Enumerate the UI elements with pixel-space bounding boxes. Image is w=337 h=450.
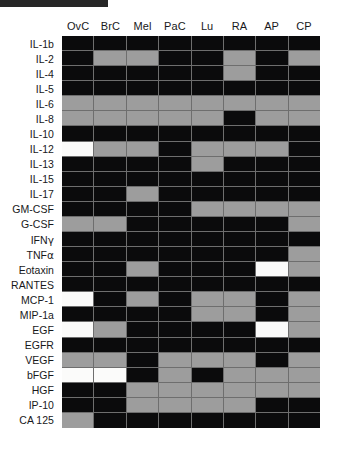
heatmap-cell[interactable] [192, 353, 224, 368]
heatmap-cell[interactable] [127, 413, 159, 428]
heatmap-cell[interactable] [192, 81, 224, 96]
heatmap-cell[interactable] [256, 277, 288, 292]
heatmap-cell[interactable] [224, 142, 256, 157]
heatmap-cell[interactable] [62, 398, 94, 413]
heatmap-cell[interactable] [94, 217, 126, 232]
heatmap-cell[interactable] [94, 126, 126, 141]
heatmap-cell[interactable] [256, 413, 288, 428]
heatmap-cell[interactable] [289, 398, 320, 413]
heatmap-cell[interactable] [192, 232, 224, 247]
heatmap-cell[interactable] [159, 172, 191, 187]
heatmap-cell[interactable] [62, 307, 94, 322]
heatmap-cell[interactable] [192, 322, 224, 337]
heatmap-cell[interactable] [289, 126, 320, 141]
heatmap-cell[interactable] [224, 247, 256, 262]
heatmap-cell[interactable] [224, 292, 256, 307]
heatmap-cell[interactable] [159, 247, 191, 262]
heatmap-cell[interactable] [94, 232, 126, 247]
heatmap-cell[interactable] [289, 322, 320, 337]
heatmap-cell[interactable] [127, 142, 159, 157]
heatmap-cell[interactable] [94, 81, 126, 96]
heatmap-cell[interactable] [62, 232, 94, 247]
heatmap-cell[interactable] [224, 413, 256, 428]
heatmap-cell[interactable] [224, 383, 256, 398]
heatmap-cell[interactable] [289, 96, 320, 111]
heatmap-cell[interactable] [62, 111, 94, 126]
heatmap-cell[interactable] [62, 277, 94, 292]
heatmap-cell[interactable] [62, 262, 94, 277]
heatmap-cell[interactable] [127, 368, 159, 383]
heatmap-cell[interactable] [94, 413, 126, 428]
heatmap-cell[interactable] [94, 66, 126, 81]
heatmap-cell[interactable] [62, 66, 94, 81]
heatmap-cell[interactable] [94, 368, 126, 383]
heatmap-cell[interactable] [256, 187, 288, 202]
heatmap-cell[interactable] [256, 172, 288, 187]
heatmap-cell[interactable] [94, 277, 126, 292]
heatmap-cell[interactable] [159, 262, 191, 277]
heatmap-cell[interactable] [224, 157, 256, 172]
heatmap-cell[interactable] [224, 126, 256, 141]
heatmap-cell[interactable] [192, 307, 224, 322]
heatmap-cell[interactable] [256, 368, 288, 383]
heatmap-cell[interactable] [192, 383, 224, 398]
heatmap-cell[interactable] [62, 81, 94, 96]
heatmap-cell[interactable] [127, 187, 159, 202]
heatmap-cell[interactable] [256, 126, 288, 141]
heatmap-cell[interactable] [192, 413, 224, 428]
heatmap-cell[interactable] [289, 307, 320, 322]
heatmap-cell[interactable] [224, 232, 256, 247]
heatmap-cell[interactable] [224, 36, 256, 51]
heatmap-cell[interactable] [192, 66, 224, 81]
heatmap-cell[interactable] [62, 96, 94, 111]
heatmap-cell[interactable] [289, 413, 320, 428]
heatmap-cell[interactable] [224, 202, 256, 217]
heatmap-cell[interactable] [224, 187, 256, 202]
heatmap-cell[interactable] [62, 187, 94, 202]
heatmap-cell[interactable] [62, 383, 94, 398]
heatmap-cell[interactable] [62, 217, 94, 232]
heatmap-cell[interactable] [289, 338, 320, 353]
heatmap-cell[interactable] [224, 307, 256, 322]
heatmap-cell[interactable] [127, 157, 159, 172]
heatmap-cell[interactable] [192, 126, 224, 141]
heatmap-cell[interactable] [159, 353, 191, 368]
heatmap-cell[interactable] [62, 202, 94, 217]
heatmap-cell[interactable] [62, 413, 94, 428]
heatmap-cell[interactable] [127, 36, 159, 51]
heatmap-cell[interactable] [289, 142, 320, 157]
heatmap-cell[interactable] [127, 338, 159, 353]
heatmap-cell[interactable] [224, 81, 256, 96]
heatmap-cell[interactable] [159, 232, 191, 247]
heatmap-cell[interactable] [127, 247, 159, 262]
heatmap-cell[interactable] [159, 111, 191, 126]
heatmap-cell[interactable] [94, 262, 126, 277]
heatmap-cell[interactable] [192, 398, 224, 413]
heatmap-cell[interactable] [62, 157, 94, 172]
heatmap-cell[interactable] [289, 383, 320, 398]
heatmap-cell[interactable] [159, 157, 191, 172]
heatmap-cell[interactable] [224, 172, 256, 187]
heatmap-cell[interactable] [224, 96, 256, 111]
heatmap-cell[interactable] [192, 338, 224, 353]
heatmap-cell[interactable] [256, 202, 288, 217]
heatmap-cell[interactable] [256, 292, 288, 307]
heatmap-cell[interactable] [289, 368, 320, 383]
heatmap-cell[interactable] [192, 277, 224, 292]
heatmap-cell[interactable] [256, 157, 288, 172]
heatmap-cell[interactable] [159, 36, 191, 51]
heatmap-cell[interactable] [127, 51, 159, 66]
heatmap-cell[interactable] [127, 111, 159, 126]
heatmap-cell[interactable] [94, 187, 126, 202]
heatmap-cell[interactable] [127, 202, 159, 217]
heatmap-cell[interactable] [62, 172, 94, 187]
heatmap-cell[interactable] [256, 398, 288, 413]
heatmap-cell[interactable] [289, 292, 320, 307]
heatmap-cell[interactable] [127, 81, 159, 96]
heatmap-cell[interactable] [289, 262, 320, 277]
heatmap-cell[interactable] [94, 172, 126, 187]
heatmap-cell[interactable] [94, 292, 126, 307]
heatmap-cell[interactable] [127, 383, 159, 398]
heatmap-cell[interactable] [289, 232, 320, 247]
heatmap-cell[interactable] [159, 66, 191, 81]
